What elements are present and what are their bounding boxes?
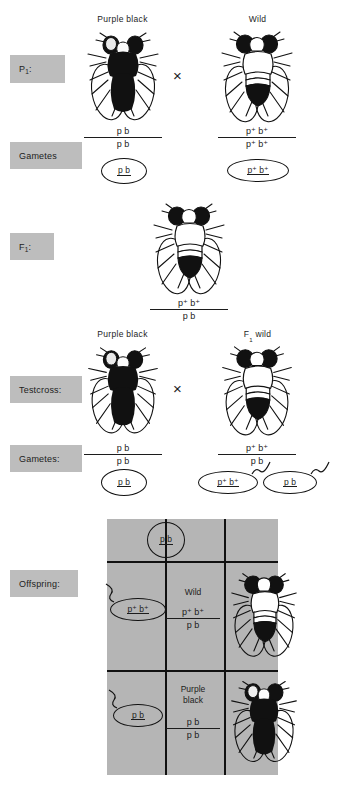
genotype-testcross-left: p b p b <box>84 443 162 467</box>
gamete-tail-testcross-2-icon <box>309 458 331 476</box>
fly-purple-black-offspring <box>228 676 300 770</box>
grid-vline-2 <box>224 519 226 775</box>
stage-label-gametes-p1: Gametes <box>10 142 82 169</box>
stage-label-offspring-text: Offspring: <box>19 579 60 589</box>
gamete-testcross-left: p b <box>101 469 147 496</box>
offspring-phenotype-2-line2: black <box>166 695 220 706</box>
fly-wild-f1 <box>150 200 228 300</box>
genotype-p1-right-denominator: p⁺ b⁺ <box>218 138 296 149</box>
offspring-phenotype-2-line1: Purple <box>166 684 220 695</box>
genotype-p1-left-denominator: p b <box>84 138 162 149</box>
stage-label-gametes-testcross: Gametes: <box>10 445 82 472</box>
offspring-genotype-2: p b p b <box>166 717 220 741</box>
genotype-p1-left: p b p b <box>84 126 162 150</box>
stage-label-p1: P1: <box>10 55 65 83</box>
gamete-tail-offspring-2-icon <box>103 688 121 710</box>
genotype-f1-denominator: p b <box>150 310 228 321</box>
stage-label-f1-sub: 1 <box>25 246 29 253</box>
title-p1-right: Wild <box>215 14 300 24</box>
fly-wild-p1 <box>218 28 296 128</box>
title-p1-left: Purple black <box>80 14 165 24</box>
gamete-testcross-left-text: p b <box>117 478 131 488</box>
offspring-genotype-2-denominator: p b <box>166 729 220 740</box>
title-testcross-right-sub: 1 <box>249 337 253 343</box>
gamete-p1-right: p⁺ b⁺ <box>227 159 289 182</box>
offspring-column-gamete: p b <box>147 522 185 558</box>
offspring-genotype-1: p⁺ b⁺ p b <box>166 607 220 631</box>
gamete-p1-left: p b <box>101 158 147 184</box>
genotype-f1: p⁺ b⁺ p b <box>150 298 228 322</box>
fly-wild-testcross <box>218 343 296 441</box>
genotype-testcross-left-numerator: p b <box>84 443 162 455</box>
gamete-tail-testcross-1-icon <box>250 458 272 476</box>
offspring-row-gamete-1-text: p⁺ b⁺ <box>127 605 150 615</box>
stage-label-p1-sub: 1 <box>25 68 29 75</box>
offspring-column-gamete-text: p b <box>159 535 173 545</box>
grid-hline-1 <box>107 561 278 563</box>
title-testcross-left: Purple black <box>80 329 165 339</box>
cross-symbol-testcross: × <box>173 381 182 396</box>
offspring-phenotype-1: Wild <box>166 587 220 598</box>
genotype-f1-numerator: p⁺ b⁺ <box>150 298 228 310</box>
gamete-p1-right-text: p⁺ b⁺ <box>247 166 270 176</box>
title-testcross-right-tail: wild <box>253 329 272 339</box>
stage-label-f1-text: F1: <box>19 242 31 252</box>
stage-label-f1: F1: <box>10 233 54 260</box>
cross-symbol-p1: × <box>173 68 182 83</box>
genotype-testcross-right-numerator: p⁺ b⁺ <box>218 443 296 455</box>
title-testcross-right: F1 wild <box>215 329 300 341</box>
genotype-p1-left-numerator: p b <box>84 126 162 138</box>
offspring-genotype-1-denominator: p b <box>166 619 220 630</box>
gamete-tail-offspring-1-icon <box>100 582 118 604</box>
stage-label-testcross-text: Testcross: <box>19 385 62 395</box>
gamete-testcross-right-1-text: p⁺ b⁺ <box>217 478 240 488</box>
genotype-p1-right: p⁺ b⁺ p⁺ b⁺ <box>218 126 296 150</box>
genotype-p1-right-numerator: p⁺ b⁺ <box>218 126 296 138</box>
offspring-genotype-1-numerator: p⁺ b⁺ <box>166 607 220 619</box>
gamete-testcross-right-1: p⁺ b⁺ <box>198 471 258 494</box>
stage-label-gametes-p1-text: Gametes <box>19 151 57 161</box>
offspring-row-gamete-1: p⁺ b⁺ <box>110 598 166 621</box>
stage-label-gametes-testcross-text: Gametes: <box>19 454 60 464</box>
stage-label-offspring: Offspring: <box>10 570 78 597</box>
stage-label-testcross: Testcross: <box>10 376 82 403</box>
gamete-testcross-right-2-text: p b <box>283 478 297 488</box>
gamete-p1-left-text: p b <box>117 166 131 176</box>
offspring-phenotype-2: Purple black <box>166 684 220 707</box>
fly-wild-offspring <box>228 570 300 662</box>
offspring-row-gamete-2-text: p b <box>131 711 145 721</box>
offspring-genotype-2-numerator: p b <box>166 717 220 729</box>
genotype-testcross-left-denominator: p b <box>84 455 162 466</box>
stage-label-p1-text: P1: <box>19 64 32 74</box>
fly-purple-black-p1 <box>84 28 162 128</box>
grid-hline-2 <box>107 670 278 672</box>
fly-purple-black-testcross <box>84 343 162 441</box>
